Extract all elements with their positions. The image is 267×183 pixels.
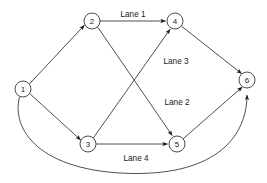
node-2-label: 2 [90, 17, 95, 26]
diagram-canvas: 1 2 3 4 5 6 Lane 1 Lane 3 Lane 2 Lane 4 [0, 0, 267, 183]
lane-label-2: Lane 2 [164, 98, 189, 107]
node-4[interactable]: 4 [167, 13, 183, 29]
edge-4-to-6 [181, 26, 241, 74]
node-4-label: 4 [173, 17, 178, 26]
edge-1-to-2 [29, 25, 84, 84]
node-2[interactable]: 2 [84, 13, 100, 29]
node-3-label: 3 [86, 140, 91, 149]
lane-label-4: Lane 4 [123, 154, 148, 163]
node-5-label: 5 [175, 140, 180, 149]
edge-3-to-4-lane-3 [93, 29, 170, 138]
node-6-label: 6 [245, 76, 250, 85]
node-6[interactable]: 6 [239, 72, 255, 88]
node-1-label: 1 [21, 85, 26, 94]
lane-label-1: Lane 1 [120, 10, 145, 19]
edge-2-to-5-lane-2 [98, 27, 173, 136]
graph-svg: 1 2 3 4 5 6 Lane 1 Lane 3 Lane 2 Lane 4 [0, 0, 267, 183]
edge-1-to-3 [30, 94, 81, 140]
node-5[interactable]: 5 [169, 136, 185, 152]
lane-label-3: Lane 3 [163, 57, 188, 66]
node-3[interactable]: 3 [80, 136, 96, 152]
edge-5-to-6 [183, 87, 242, 139]
node-1[interactable]: 1 [15, 81, 31, 97]
